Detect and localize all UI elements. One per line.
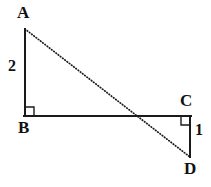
length-label-ab: 2	[8, 58, 16, 74]
vertex-label-d: D	[184, 160, 196, 177]
length-label-cd: 1	[195, 122, 203, 138]
vertex-label-b: B	[18, 119, 29, 136]
geometry-figure: A B C D 2 1	[0, 0, 211, 187]
vertex-label-c: C	[180, 92, 192, 109]
right-angle-mark-at-c	[181, 116, 190, 125]
vertex-label-a: A	[17, 4, 29, 21]
segment-ad-dotted	[25, 29, 190, 157]
right-angle-mark-at-b	[25, 107, 34, 116]
